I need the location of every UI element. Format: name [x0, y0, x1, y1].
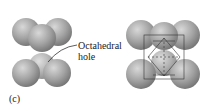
octahedral-label: Octahedral	[78, 41, 122, 51]
left-bottom-layer	[12, 53, 71, 87]
left-top-layer	[12, 18, 72, 52]
right-bottom-layer	[126, 50, 200, 89]
sphere-packing-diagram	[0, 0, 209, 111]
hole-label: hole	[78, 52, 95, 62]
panel-label: (c)	[9, 94, 20, 104]
octahedral-hole-figure: Octahedral hole (c)	[0, 0, 209, 111]
